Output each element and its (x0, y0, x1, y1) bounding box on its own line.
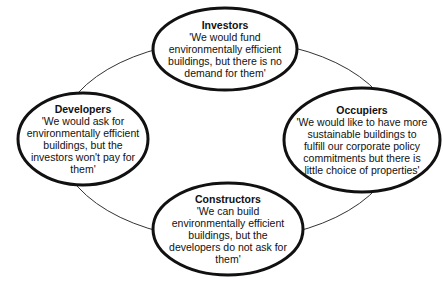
node-quote: 'We would ask for environmentally effici… (24, 115, 142, 175)
node-title: Investors (160, 19, 290, 31)
node-occupiers: Occupiers 'We would like to have more su… (296, 104, 428, 176)
node-title: Constructors (163, 193, 293, 205)
node-investors: Investors 'We would fund environmentally… (160, 19, 290, 79)
node-constructors: Constructors 'We can build environmental… (163, 193, 293, 265)
node-quote: 'We can build environmentally efficient … (163, 205, 293, 265)
node-developers: Developers 'We would ask for environment… (24, 103, 142, 175)
stakeholder-cycle-diagram: Investors 'We would fund environmentally… (0, 0, 443, 281)
node-quote: 'We would fund environmentally efficient… (160, 31, 290, 79)
node-title: Developers (24, 103, 142, 115)
node-quote: 'We would like to have more sustainable … (296, 116, 428, 176)
node-title: Occupiers (296, 104, 428, 116)
